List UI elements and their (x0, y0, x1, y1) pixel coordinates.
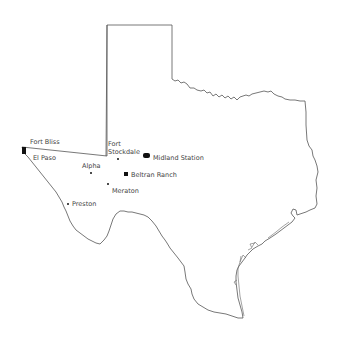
fort-stockdale-marker[interactable] (117, 158, 119, 160)
fort-bliss-marker[interactable] (22, 147, 26, 154)
label-fort-bliss: Fort Bliss (30, 139, 60, 146)
label-midland-station: Midland Station (153, 155, 204, 162)
beltran-ranch-marker[interactable] (124, 172, 128, 176)
label-preston: Preston (72, 201, 96, 208)
label-beltran-ranch: Beltran Ranch (131, 172, 177, 179)
label-meraton: Meraton (112, 188, 139, 195)
alpha-marker[interactable] (90, 172, 92, 174)
midland-station-marker[interactable] (143, 153, 150, 158)
meraton-marker[interactable] (107, 183, 109, 185)
preston-marker[interactable] (67, 203, 69, 205)
texas-map (0, 0, 343, 340)
label-fort: Fort (108, 141, 121, 148)
label-el-paso: El Paso (33, 155, 56, 162)
barrier-islands (234, 222, 289, 316)
label-stockdale: Stockdale (108, 149, 140, 156)
label-alpha: Alpha (82, 163, 100, 170)
